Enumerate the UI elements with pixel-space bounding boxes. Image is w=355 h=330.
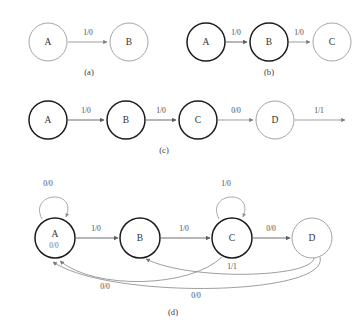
panel-c-edge-B-C-label: 1/0 — [156, 106, 166, 115]
panel-d-selfloop-C — [217, 197, 245, 219]
panel-c-node-B-label: B — [123, 115, 129, 125]
panel-d-node-D-label: D — [309, 233, 316, 243]
figure-canvas: A B 1/0 (a) A B C 1/0 1/0 (b) A — [0, 0, 355, 330]
panel-d-node-C-label: C — [229, 233, 235, 243]
panel-b-caption: (b) — [264, 67, 274, 77]
panel-d-caption: (d) — [168, 307, 178, 317]
panel-b-node-B-label: B — [266, 37, 272, 47]
panel-c-edge-C-D-label: 0/0 — [231, 106, 241, 115]
state-diagram-figure: A B 1/0 (a) A B C 1/0 1/0 (b) A — [0, 0, 355, 330]
panel-d-edge-D-A-label: 0/0 — [191, 291, 201, 300]
panel-b-edge-A-B-label: 1/0 — [231, 28, 241, 37]
panel-b: A B C 1/0 1/0 (b) — [187, 23, 351, 77]
panel-d-selfloop-C-label: 1/0 — [221, 179, 231, 188]
panel-d-edge-B-C-label: 1/0 — [179, 224, 189, 233]
panel-c-edge-A-B-label: 1/0 — [81, 106, 91, 115]
panel-d-node-A-label: A — [52, 229, 59, 239]
panel-d-edge-C-D-label: 0/0 — [266, 224, 276, 233]
panel-d-selfloop-A — [40, 197, 68, 219]
panel-b-edge-B-C-label: 1/0 — [294, 28, 304, 37]
panel-d-edge-D-B-label: 1/1 — [227, 262, 237, 271]
panel-d: 0/0 1/0 0/0 1/1 0/0 A 0/0 B C D — [35, 179, 332, 317]
panel-b-node-C-label: C — [329, 37, 335, 47]
panel-c: A B C D 1/0 1/0 0/0 1/1 (c) — [29, 101, 345, 155]
panel-d-selfloop-A-label: 0/0 — [43, 179, 53, 188]
panel-c-node-A-label: A — [45, 115, 52, 125]
panel-a-node-A-label: A — [45, 37, 52, 47]
panel-c-caption: (c) — [159, 145, 169, 155]
panel-d-edge-C-A — [60, 257, 222, 282]
panel-a-edge-A-B-label: 1/0 — [83, 28, 93, 37]
panel-a-node-B-label: B — [126, 37, 132, 47]
panel-a: A B 1/0 (a) — [29, 23, 148, 77]
panel-c-node-D-label: D — [272, 115, 279, 125]
panel-c-node-C-label: C — [195, 115, 201, 125]
panel-d-node-A-overlap-label: 0/0 — [49, 241, 59, 250]
panel-d-edge-A-B-label: 1/0 — [91, 224, 101, 233]
panel-d-edge-D-A — [53, 257, 320, 288]
panel-d-edge-C-A-label: 0/0 — [100, 282, 110, 291]
panel-c-edge-D-dangling-label: 1/1 — [314, 106, 324, 115]
panel-b-node-A-label: A — [203, 37, 210, 47]
panel-a-caption: (a) — [84, 67, 94, 77]
panel-d-node-B-label: B — [137, 233, 143, 243]
